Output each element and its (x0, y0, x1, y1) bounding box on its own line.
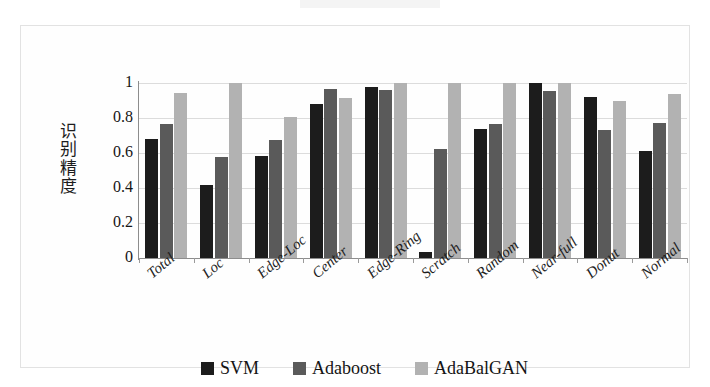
bar-near-full-svm (529, 83, 542, 258)
y-tick-label: 0 (97, 248, 133, 266)
bar-scratch-adabalgan (448, 83, 461, 258)
legend-label: SVM (220, 358, 259, 379)
x-axis-tick (632, 258, 633, 263)
bar-near-full-adaboost (543, 91, 556, 258)
y-axis-title-char: 识 (53, 122, 83, 140)
chart-legend: SVMAdaboostAdaBalGAN (201, 358, 528, 379)
y-axis-title-char: 度 (53, 177, 83, 195)
x-axis-tick (249, 258, 250, 263)
bar-center-svm (310, 104, 323, 258)
bar-donut-svm (584, 97, 597, 258)
bar-group (632, 83, 687, 258)
bar-total-adabalgan (174, 93, 187, 258)
bar-total-svm (145, 139, 158, 258)
bar-random-svm (474, 129, 487, 258)
bar-group (468, 83, 523, 258)
x-axis-tick (194, 258, 195, 263)
chart-figure-frame: 识别精度 00.20.40.60.81 TotalLocEdge-LocCent… (20, 25, 690, 368)
y-tick-label: 0.2 (97, 213, 133, 231)
bar-loc-svm (200, 185, 213, 259)
legend-entry-svm[interactable]: SVM (201, 358, 259, 379)
x-axis-tick (303, 258, 304, 263)
bar-loc-adabalgan (229, 83, 242, 258)
bar-edge-loc-svm (255, 156, 268, 258)
x-axis-tick (468, 258, 469, 263)
x-axis-tick (139, 258, 140, 263)
x-axis-tick (687, 258, 688, 263)
legend-entry-adabalgan[interactable]: AdaBalGAN (415, 358, 528, 379)
y-axis-tick-labels: 00.20.40.60.81 (93, 83, 133, 258)
x-axis-tick (413, 258, 414, 263)
legend-label: AdaBalGAN (434, 358, 528, 379)
bar-group (139, 83, 194, 258)
y-axis-title-char: 精 (53, 159, 83, 177)
bar-group (523, 83, 578, 258)
y-axis-title: 识别精度 (53, 122, 83, 195)
bar-edge-ring-adaboost (379, 90, 392, 258)
bar-loc-adaboost (215, 157, 228, 259)
bar-donut-adabalgan (613, 101, 626, 259)
bar-group (577, 83, 632, 258)
y-tick-label: 1 (97, 73, 133, 91)
y-axis-title-char: 别 (53, 140, 83, 158)
x-axis-tick (577, 258, 578, 263)
x-axis-tick (358, 258, 359, 263)
bar-total-adaboost (160, 124, 173, 258)
bar-random-adaboost (489, 124, 502, 258)
bar-group (413, 83, 468, 258)
bar-center-adabalgan (339, 98, 352, 258)
legend-swatch-icon (293, 362, 306, 375)
x-axis-tick (523, 258, 524, 263)
bar-edge-loc-adaboost (269, 140, 282, 258)
bar-scratch-adaboost (434, 149, 447, 258)
bar-edge-ring-adabalgan (394, 83, 407, 258)
legend-swatch-icon (201, 362, 214, 375)
bar-group (358, 83, 413, 258)
bar-group (249, 83, 304, 258)
scan-artifact (300, 0, 440, 8)
bar-normal-svm (639, 151, 652, 258)
legend-swatch-icon (415, 362, 428, 375)
bar-group (194, 83, 249, 258)
y-tick-label: 0.8 (97, 108, 133, 126)
bar-random-adabalgan (503, 83, 516, 258)
y-tick-label: 0.4 (97, 178, 133, 196)
bar-donut-adaboost (598, 130, 611, 258)
legend-label: Adaboost (312, 358, 381, 379)
bar-normal-adaboost (653, 123, 666, 258)
bar-edge-ring-svm (365, 87, 378, 258)
bar-near-full-adabalgan (558, 83, 571, 258)
legend-entry-adaboost[interactable]: Adaboost (293, 358, 381, 379)
bar-center-adaboost (324, 89, 337, 258)
bar-group (303, 83, 358, 258)
bar-normal-adabalgan (668, 94, 681, 259)
y-tick-label: 0.6 (97, 143, 133, 161)
